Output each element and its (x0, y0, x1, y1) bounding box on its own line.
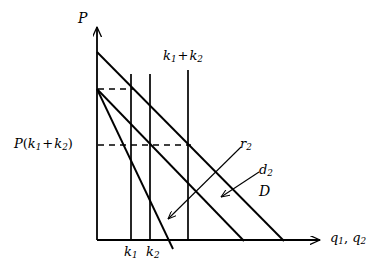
k2-tick-label: k2 (146, 245, 160, 258)
r2-pointer-arrow (168, 147, 241, 219)
marginal-revenue-curve-r2 (97, 89, 173, 249)
residual-demand-curve-d2 (97, 89, 244, 241)
curves-group (97, 52, 284, 249)
demand-curve-label: D (259, 184, 270, 198)
total-capacity-label: k1+k2 (163, 49, 203, 62)
d2-pointer-arrow (221, 172, 259, 197)
quantity-axis-label: q1, q2 (330, 231, 366, 244)
diagram-canvas (0, 0, 379, 270)
marginal-revenue-label: r2 (240, 137, 252, 150)
k1-tick-label: k1 (124, 245, 138, 258)
economics-diagram: P k1+k2 P(k1+k2) r2 d2 D k1 k2 q1, q2 (0, 0, 379, 270)
residual-demand-label: d2 (259, 163, 273, 176)
price-level-label: P(k1+k2) (14, 137, 73, 150)
price-axis-label: P (78, 11, 87, 25)
dashed-guides-group (98, 89, 191, 145)
